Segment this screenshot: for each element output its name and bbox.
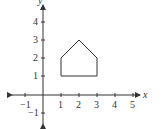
x-axis-label: x bbox=[142, 89, 148, 100]
y-tick-label: 3 bbox=[33, 34, 38, 45]
y-tick-label: −1 bbox=[28, 107, 39, 118]
y-tick-label: 2 bbox=[33, 52, 38, 63]
x-tick-label: 2 bbox=[76, 99, 81, 110]
x-tick-label: 4 bbox=[112, 99, 117, 110]
x-tick-label: 1 bbox=[58, 99, 63, 110]
pentagon-shape bbox=[61, 40, 97, 76]
y-axis-label: y bbox=[37, 0, 43, 6]
coordinate-plane: −1 1 2 3 4 5 4 3 2 1 −1 x y bbox=[0, 0, 164, 129]
x-tick-label: 5 bbox=[130, 99, 135, 110]
x-tick-label: 3 bbox=[94, 99, 99, 110]
y-tick-label: 1 bbox=[33, 70, 38, 81]
y-tick-label: 4 bbox=[33, 16, 38, 27]
